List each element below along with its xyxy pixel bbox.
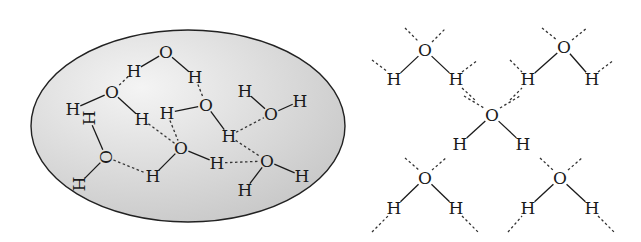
covalent-bond (400, 184, 418, 201)
ice-tetrahedral-lattice: OHHOHHOHHOHHOHH (372, 28, 614, 232)
hydrogen-bond (462, 216, 478, 232)
hydrogen-atom-label: H (238, 81, 253, 101)
hydrogen-bond (432, 158, 446, 170)
hydrogen-atom-label: H (66, 99, 81, 119)
hydrogen-bond (405, 28, 419, 42)
hydrogen-bond (500, 96, 520, 108)
hydrogen-bond (510, 88, 522, 100)
hydrogen-atom-label: H (516, 134, 531, 154)
covalent-bond (567, 184, 586, 202)
hydrogen-atom-label: H (146, 166, 161, 186)
hydrogen-atom-label: H (585, 69, 600, 89)
hydrogen-atom-label: H (293, 91, 308, 111)
hydrogen-atom-label: H (79, 111, 99, 126)
covalent-bond (432, 56, 450, 73)
hydrogen-atom-label: H (449, 198, 464, 218)
hydrogen-bond (432, 28, 446, 42)
hydrogen-bond (598, 216, 614, 232)
covalent-bond (467, 121, 486, 138)
hydrogen-atom-label: H (585, 198, 600, 218)
oxygen-atom-label: O (199, 95, 213, 115)
oxygen-atom-label: O (264, 104, 278, 124)
figure-canvas: OHHOHHHHOHOHHOHHOHHOH OHHOHHOHHOHHOHH (0, 0, 641, 242)
hydrogen-atom-label: H (160, 103, 175, 123)
hydrogen-atom-label: H (69, 177, 89, 192)
hydrogen-atom-label: H (135, 109, 150, 129)
covalent-bond (535, 53, 558, 73)
hydrogen-atom-label: H (188, 67, 203, 87)
hydrogen-atom-label: H (127, 61, 142, 81)
hydrogen-atom-label: H (449, 69, 464, 89)
oxygen-atom-label: O (96, 150, 116, 164)
hydrogen-bond (540, 158, 553, 170)
hydrogen-bonds (372, 28, 614, 232)
hydrogen-bond (542, 28, 557, 40)
covalent-bond (431, 184, 449, 201)
hydrogen-bond (598, 60, 614, 72)
hydrogen-atom-label: H (453, 134, 468, 154)
hydrogen-bond (462, 88, 475, 100)
oxygen-atom-label: O (553, 168, 567, 188)
atoms: OHHOHHOHHOHHOHH (387, 37, 600, 218)
hydrogen-atom-label: H (222, 126, 237, 146)
hydrogen-bond (462, 60, 478, 72)
hydrogen-atom-label: H (521, 69, 536, 89)
oxygen-atom-label: O (159, 42, 173, 62)
covalent-bond (401, 56, 419, 73)
hydrogen-atom-label: H (387, 198, 402, 218)
hydrogen-bond (568, 158, 582, 170)
hydrogen-bond (572, 28, 587, 40)
oxygen-atom-label: O (485, 105, 499, 125)
hydrogen-atom-label: H (210, 153, 225, 173)
covalent-bond (535, 184, 554, 202)
hydrogen-atom-label: H (521, 198, 536, 218)
oxygen-atom-label: O (418, 168, 432, 188)
cluster-boundary-ellipse (31, 30, 345, 222)
hydrogen-bond (508, 216, 522, 232)
oxygen-atom-label: O (260, 151, 274, 171)
hydrogen-atom-label: H (238, 180, 253, 200)
hydrogen-bond (464, 96, 484, 108)
oxygen-atom-label: O (174, 138, 188, 158)
hydrogen-atom-label: H (295, 166, 310, 186)
hydrogen-bond (372, 216, 388, 232)
oxygen-atom-label: O (418, 40, 432, 60)
covalent-bond (499, 121, 517, 138)
oxygen-atom-label: O (557, 37, 571, 57)
hydrogen-bond (405, 158, 419, 170)
oxygen-atom-label: O (105, 82, 119, 102)
water-structure-figure: OHHOHHHHOHOHHOHHOHHOH OHHOHHOHHOHHOHH (0, 0, 641, 242)
liquid-water-cluster: OHHOHHHHOHOHHOHHOHHOH (31, 30, 345, 222)
hydrogen-atom-label: H (387, 69, 402, 89)
